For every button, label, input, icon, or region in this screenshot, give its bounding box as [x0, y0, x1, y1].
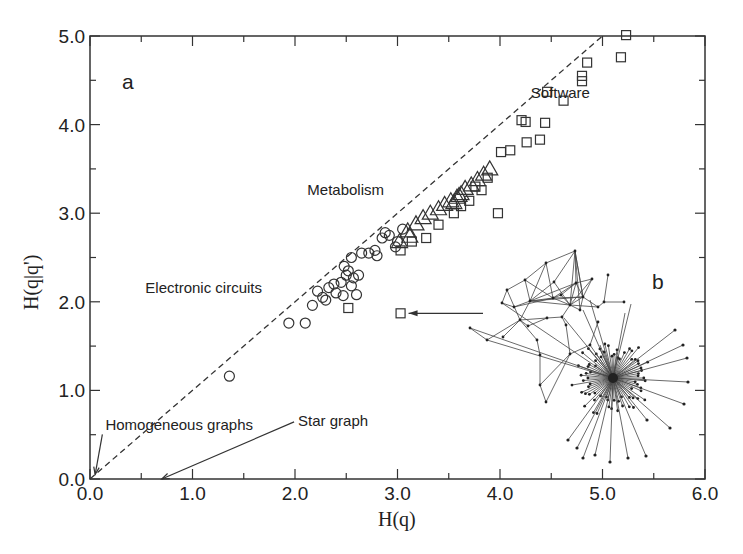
x-tick-label: 4.0	[487, 483, 513, 504]
network-node	[513, 306, 516, 309]
series-electronic-circuits	[224, 224, 407, 381]
network-node	[634, 380, 637, 383]
network-edge	[540, 354, 570, 385]
circle-marker	[307, 300, 317, 310]
network-node	[588, 393, 591, 396]
network-edge	[561, 283, 576, 295]
circle-marker	[321, 295, 331, 305]
network-node	[636, 383, 639, 386]
panel-label-a: a	[122, 70, 134, 93]
network-node	[502, 336, 505, 339]
network-node	[588, 363, 591, 366]
network-node	[580, 374, 583, 377]
y-tick-label: 1.0	[59, 380, 85, 401]
network-node	[571, 384, 574, 387]
network-node	[580, 391, 583, 394]
network-node	[597, 321, 600, 324]
network-node	[640, 389, 643, 392]
network-edge	[525, 280, 553, 298]
circle-marker	[224, 371, 234, 381]
network-node	[607, 274, 610, 277]
network-edge	[613, 330, 675, 378]
network-node	[611, 355, 614, 358]
network-node	[626, 456, 629, 459]
network-node	[603, 343, 606, 346]
network-node	[640, 367, 643, 370]
panel-label-b: b	[652, 270, 664, 293]
network-node	[539, 354, 542, 357]
network-node	[628, 347, 631, 350]
network-edge	[562, 305, 570, 317]
network-edge	[613, 378, 628, 458]
network-node	[582, 379, 585, 382]
network-node	[607, 406, 610, 409]
y-tick-label: 4.0	[59, 115, 85, 136]
network-node	[529, 300, 532, 303]
y-tick-label: 5.0	[59, 26, 85, 47]
x-tick-label: 2.0	[282, 483, 308, 504]
network-node	[642, 377, 645, 380]
network-node	[632, 406, 635, 409]
x-tick-label: 5.0	[589, 483, 615, 504]
network-node	[486, 339, 489, 342]
circle-marker	[284, 318, 294, 328]
network-edge	[546, 263, 553, 298]
x-tick-label: 1.0	[179, 483, 205, 504]
network-node	[608, 460, 611, 463]
circle-marker	[346, 253, 356, 263]
network-node	[560, 294, 563, 297]
circle-marker	[300, 318, 310, 328]
network-node	[630, 387, 633, 390]
network-edge	[487, 340, 613, 378]
network-node	[575, 282, 578, 285]
network-node	[587, 385, 590, 388]
network-node	[644, 454, 647, 457]
square-marker	[583, 58, 592, 67]
y-tick-label: 0.0	[59, 469, 85, 490]
network-node	[668, 426, 671, 429]
network-node	[643, 399, 646, 402]
network-edge	[540, 385, 546, 402]
square-marker	[522, 138, 531, 147]
network-node	[630, 358, 633, 361]
square-marker	[493, 209, 502, 218]
circle-marker	[313, 286, 323, 296]
network-edge	[575, 251, 583, 297]
square-marker	[535, 135, 544, 144]
network-node	[630, 349, 633, 352]
network-node	[575, 446, 578, 449]
annotation-label: Star graph	[298, 412, 368, 429]
network-node	[581, 456, 584, 459]
annotation-label: Electronic circuits	[145, 279, 262, 296]
network-edge	[547, 317, 562, 318]
network-node	[584, 392, 587, 395]
network-node	[546, 317, 549, 320]
y-tick-label: 2.0	[59, 292, 85, 313]
network-edge	[502, 290, 507, 303]
network-node	[623, 351, 626, 354]
square-marker	[622, 31, 631, 40]
network-node	[524, 279, 527, 282]
network-node	[637, 374, 640, 377]
network-node	[506, 289, 509, 292]
network-node	[561, 316, 564, 319]
network-edge	[613, 358, 687, 378]
square-marker	[422, 234, 431, 243]
square-marker	[344, 304, 353, 313]
network-node	[566, 438, 569, 441]
network-node	[586, 377, 589, 380]
network-node	[565, 324, 568, 327]
x-tick-label: 3.0	[384, 483, 410, 504]
network-node	[600, 356, 603, 359]
network-edge	[566, 325, 570, 354]
network-node	[681, 343, 684, 346]
network-node	[637, 346, 640, 349]
network-inset	[409, 250, 690, 464]
network-edge	[537, 340, 540, 355]
square-marker	[506, 146, 515, 155]
square-marker	[578, 71, 587, 80]
chart: 0.01.02.03.04.05.06.00.01.02.03.04.05.0 …	[0, 0, 743, 554]
square-marker	[497, 148, 506, 157]
network-node	[519, 319, 522, 322]
circle-marker	[336, 277, 346, 287]
